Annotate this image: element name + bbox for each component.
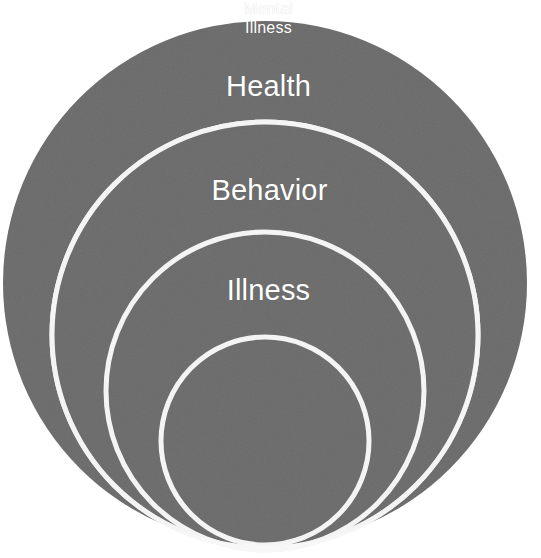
ring-label-health: Health xyxy=(0,69,539,103)
diagram-canvas: Health Behavior Illness Mental Illness xyxy=(0,0,541,558)
ring-label-mental-illness: Mental Illness xyxy=(0,0,539,38)
ring-label-illness: Illness xyxy=(0,273,539,307)
ring-label-behavior: Behavior xyxy=(0,173,540,207)
